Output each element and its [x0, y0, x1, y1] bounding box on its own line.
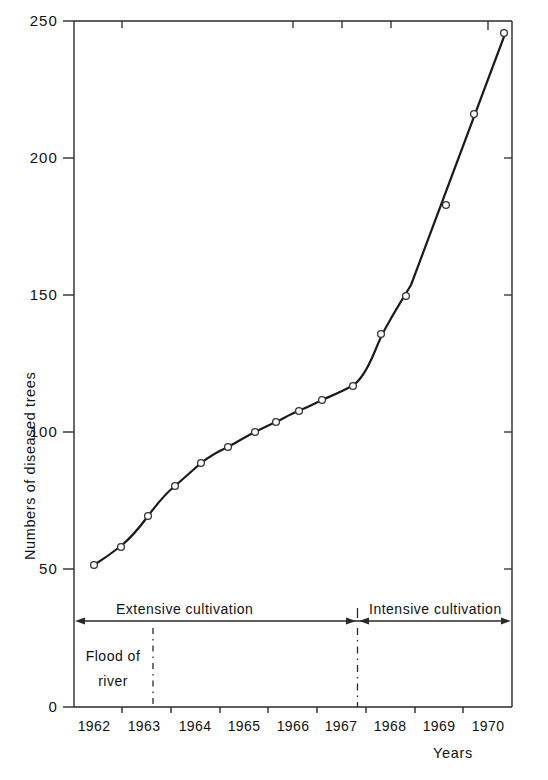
y-tick-label-100: 100: [0, 423, 58, 440]
y-tick-label-0: 0: [0, 698, 58, 715]
data-point: [225, 444, 232, 451]
data-point: [296, 408, 303, 415]
data-point: [443, 202, 450, 209]
intensive-cultivation-label: Intensive cultivation: [369, 601, 502, 617]
data-point: [471, 111, 478, 118]
data-point: [501, 30, 508, 37]
data-point: [378, 331, 385, 338]
data-point: [145, 513, 152, 520]
data-point: [319, 397, 326, 404]
x-tick-label-1970: 1970: [456, 718, 520, 734]
flood-of-river-label-line1: Flood of: [76, 648, 150, 664]
data-point: [403, 293, 410, 300]
data-point: [91, 562, 98, 569]
data-point: [118, 544, 125, 551]
x-axis-title: Years: [433, 745, 473, 761]
data-point: [350, 383, 357, 390]
flood-of-river-label-line2: river: [76, 673, 150, 689]
data-point: [198, 460, 205, 467]
y-tick-label-250: 250: [0, 12, 58, 29]
data-point: [252, 429, 259, 436]
data-point: [273, 419, 280, 426]
extensive-cultivation-label: Extensive cultivation: [116, 601, 253, 617]
y-tick-label-200: 200: [0, 149, 58, 166]
y-tick-label-150: 150: [0, 286, 58, 303]
y-tick-label-50: 50: [0, 560, 58, 577]
y-axis-title: Numbers of diseased trees: [22, 372, 38, 560]
data-point: [172, 483, 179, 490]
